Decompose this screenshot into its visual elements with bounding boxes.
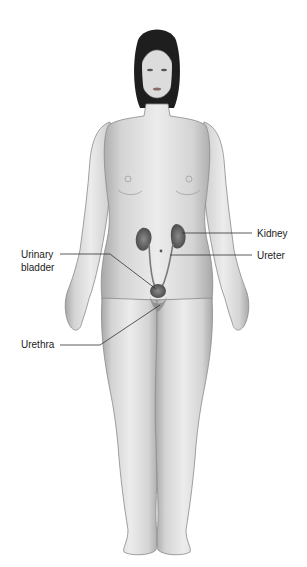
urinary-bladder-label-line2: bladder	[21, 262, 54, 273]
ureter-label: Ureter	[257, 250, 285, 261]
head	[136, 33, 178, 104]
anatomy-figure	[0, 0, 307, 567]
urethra-label: Urethra	[21, 339, 54, 350]
body	[65, 104, 249, 555]
kidney-label: Kidney	[257, 228, 288, 239]
urinary-bladder-label-line1: Urinary	[21, 249, 53, 260]
